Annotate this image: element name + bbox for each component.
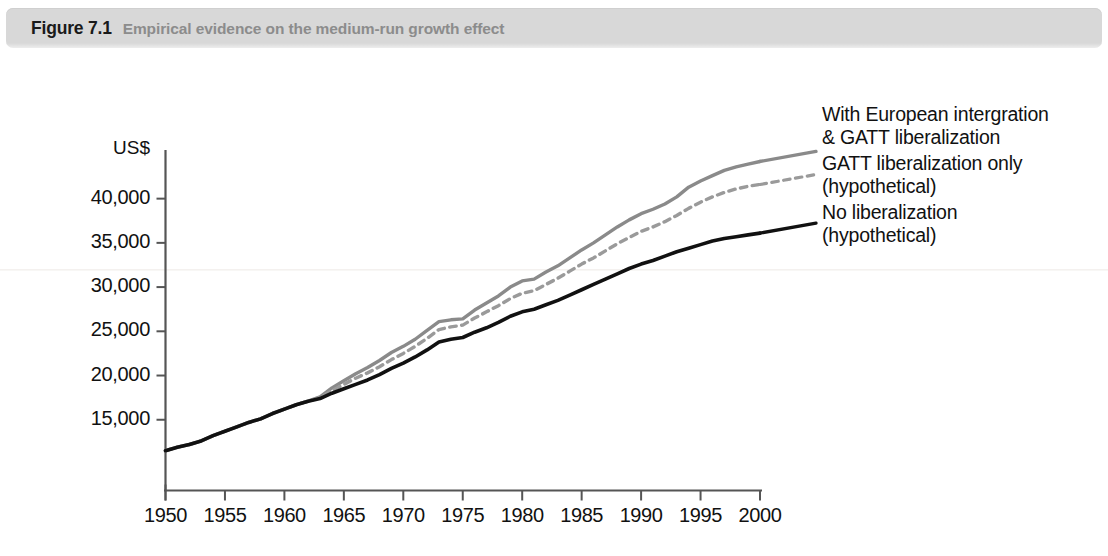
legend-leader-lines xyxy=(760,151,816,233)
legend-item-with-integration: With European intergration & GATT libera… xyxy=(822,103,1049,149)
y-axis-tick-label: 25,000 xyxy=(20,318,150,341)
chart-series-group xyxy=(166,162,761,451)
legend-label-line1: No liberalization xyxy=(822,201,957,223)
figure-title: Empirical evidence on the medium-run gro… xyxy=(123,20,505,37)
x-axis-tick-label: 2000 xyxy=(720,504,800,527)
legend-label-line2: (hypothetical) xyxy=(822,224,957,247)
legend-leader-gatt-liberalization-only-hypothetical xyxy=(760,174,816,184)
figure-number: Figure 7.1 xyxy=(31,18,112,38)
legend-label-line2: & GATT liberalization xyxy=(822,126,1049,149)
y-axis-tick-label: 20,000 xyxy=(20,363,150,386)
y-axis-tick-label: 40,000 xyxy=(20,186,150,209)
y-axis-tick-label: 30,000 xyxy=(20,274,150,297)
legend-leader-with-european-intergration-gatt-liberali xyxy=(760,151,816,161)
chart-plot-area xyxy=(0,0,1108,556)
figure-root: Figure 7.1Empirical evidence on the medi… xyxy=(0,0,1108,556)
series-line-no-liberalization-hypothetical xyxy=(166,233,761,451)
legend-item-no-liberalization: No liberalization (hypothetical) xyxy=(822,201,957,247)
chart-axes xyxy=(157,150,763,501)
legend-label-line2: (hypothetical) xyxy=(822,175,1022,198)
x-axis-ticks xyxy=(166,485,761,501)
y-axis-tick-label: 35,000 xyxy=(20,230,150,253)
legend-item-gatt-only: GATT liberalization only (hypothetical) xyxy=(822,152,1022,198)
y-axis-ticks xyxy=(157,199,166,420)
series-line-with-european-intergration-gatt-liberali xyxy=(166,162,761,451)
legend-label-line1: With European intergration xyxy=(822,103,1049,125)
y-axis-tick-label: 15,000 xyxy=(20,407,150,430)
y-axis-units-label: US$ xyxy=(113,137,150,159)
legend-leader-no-liberalization-hypothetical xyxy=(760,223,816,233)
figure-header-text: Figure 7.1Empirical evidence on the medi… xyxy=(31,16,504,41)
legend-label-line1: GATT liberalization only xyxy=(822,152,1022,174)
